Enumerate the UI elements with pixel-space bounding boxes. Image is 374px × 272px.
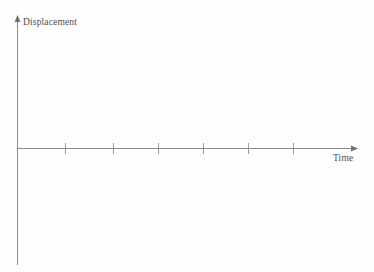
- chart-canvas: Displacement Time: [0, 0, 374, 272]
- x-axis-group: [18, 146, 359, 152]
- chart-plot-area: [0, 0, 374, 272]
- y-axis-label: Displacement: [23, 17, 77, 27]
- y-axis-arrow-up-icon: [15, 15, 21, 22]
- x-axis-label: Time: [333, 153, 353, 163]
- y-axis-group: [15, 15, 21, 265]
- x-axis-arrow-right-icon: [351, 146, 358, 152]
